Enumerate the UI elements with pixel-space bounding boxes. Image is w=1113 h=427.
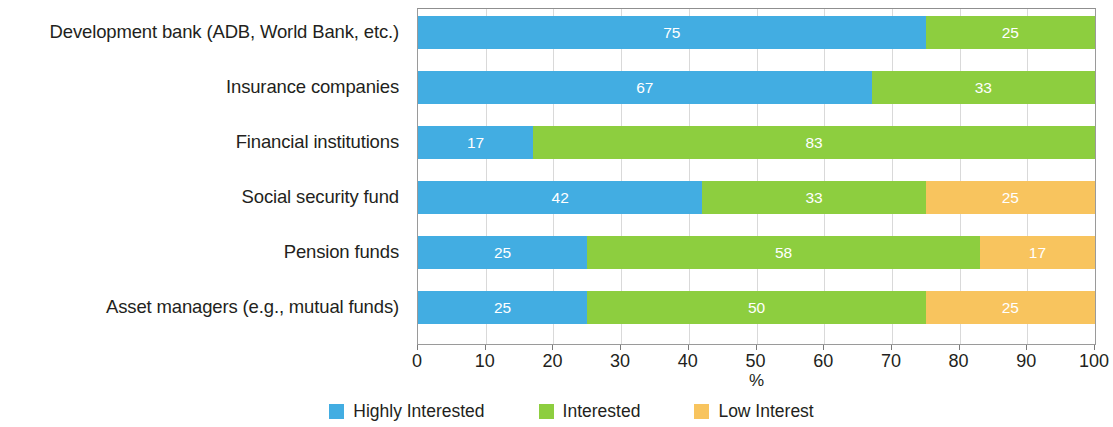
chart-legend: Highly InterestedInterestedLow Interest <box>0 399 1113 423</box>
bar-segment: 25 <box>926 181 1095 214</box>
x-axis-tick <box>485 345 486 350</box>
x-axis-tick <box>620 345 621 350</box>
bar-segment: 17 <box>980 236 1095 269</box>
legend-swatch-icon <box>694 404 709 419</box>
bar-segment: 83 <box>533 126 1095 159</box>
legend-item[interactable]: Low Interest <box>694 401 813 422</box>
x-axis-tick-label: 10 <box>475 351 495 372</box>
category-label: Insurance companies <box>226 70 399 103</box>
plot-area: 752567331783423325255817255025 <box>417 8 1096 345</box>
bar-row: 423325 <box>418 181 1095 214</box>
bar-row: 1783 <box>418 126 1095 159</box>
x-axis-tick-label: 60 <box>813 351 833 372</box>
x-axis-tick <box>552 345 553 350</box>
bar-segment: 33 <box>702 181 925 214</box>
bar-segment: 33 <box>872 71 1095 104</box>
bar-row: 7525 <box>418 16 1095 49</box>
bar-segment: 75 <box>418 16 926 49</box>
bar-segment: 58 <box>587 236 980 269</box>
x-axis-tick-label: 90 <box>1016 351 1036 372</box>
category-label: Pension funds <box>284 235 399 268</box>
category-label: Social security fund <box>242 180 399 213</box>
stacked-bar-chart: Development bank (ADB, World Bank, etc.)… <box>0 0 1113 427</box>
legend-label: Low Interest <box>718 401 813 422</box>
x-axis-title: % <box>417 371 1096 391</box>
x-axis-tick <box>1026 345 1027 350</box>
bar-row: 255025 <box>418 291 1095 324</box>
bar-segment: 25 <box>418 236 587 269</box>
bar-segment: 17 <box>418 126 533 159</box>
bar-segment: 50 <box>587 291 926 324</box>
x-axis-tick-label: 100 <box>1079 351 1109 372</box>
bar-row: 6733 <box>418 71 1095 104</box>
bar-segment: 25 <box>418 291 587 324</box>
x-axis-tick <box>688 345 689 350</box>
category-axis-labels: Development bank (ADB, World Bank, etc.)… <box>0 0 408 345</box>
bar-segment: 25 <box>926 291 1095 324</box>
bar-segment: 42 <box>418 181 702 214</box>
legend-swatch-icon <box>539 404 554 419</box>
category-label: Asset managers (e.g., mutual funds) <box>106 290 399 323</box>
x-axis-tick-label: 50 <box>745 351 765 372</box>
x-axis-tick <box>756 345 757 350</box>
legend-label: Highly Interested <box>353 401 484 422</box>
x-axis-tick-label: 30 <box>610 351 630 372</box>
category-label: Development bank (ADB, World Bank, etc.) <box>50 15 399 48</box>
legend-item[interactable]: Interested <box>539 401 641 422</box>
x-axis-tick <box>959 345 960 350</box>
x-axis-tick-label: 80 <box>949 351 969 372</box>
legend-swatch-icon <box>329 404 344 419</box>
x-axis-tick <box>417 345 418 350</box>
x-axis-tick <box>891 345 892 350</box>
x-axis-tick-label: 70 <box>881 351 901 372</box>
category-label: Financial institutions <box>236 125 399 158</box>
x-axis-tick-label: 20 <box>542 351 562 372</box>
legend-label: Interested <box>563 401 641 422</box>
bar-segment: 25 <box>926 16 1095 49</box>
x-axis-tick <box>823 345 824 350</box>
x-axis-tick-label: 40 <box>678 351 698 372</box>
bar-segment: 67 <box>418 71 872 104</box>
bar-row: 255817 <box>418 236 1095 269</box>
x-axis-tick <box>1094 345 1095 350</box>
legend-item[interactable]: Highly Interested <box>329 401 484 422</box>
x-axis-tick-label: 0 <box>412 351 422 372</box>
